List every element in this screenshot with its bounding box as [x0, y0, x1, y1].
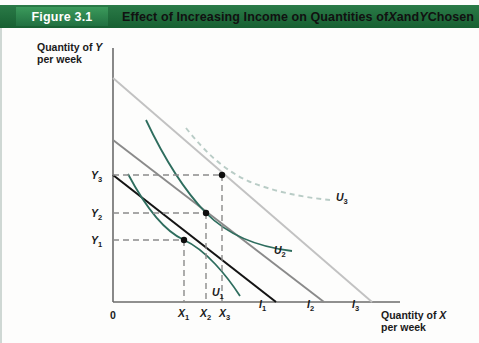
figure-title-var-y: Y	[419, 10, 427, 24]
indifference-curve-u1	[128, 174, 240, 296]
y-tick-y1-base: Y	[91, 234, 98, 246]
y-axis-title-var: Y	[95, 41, 102, 53]
indiff-u1-base: U	[212, 286, 220, 298]
indiff-u1-sub: 1	[220, 292, 224, 301]
figure-title-var-x: X	[388, 10, 396, 24]
budget-line-label-i1: I1	[259, 298, 266, 313]
budget-line-i2	[113, 140, 324, 302]
indiff-u3-sub: 3	[344, 197, 348, 206]
y-tick-label-y2: Y2	[91, 207, 102, 222]
x-tick-x2-sub: 2	[207, 313, 211, 322]
x-tick-label-x3: X3	[219, 307, 230, 322]
x-axis-title: Quantity of X per week	[381, 310, 446, 333]
y-tick-y3-base: Y	[91, 169, 98, 181]
figure-container: Figure 3.1 Effect of Increasing Income o…	[0, 0, 479, 343]
indifference-label-u1: U1	[212, 286, 224, 301]
indifference-curve-u3	[186, 128, 330, 200]
y-tick-y3-sub: 3	[98, 175, 102, 184]
x-tick-label-x1: X1	[178, 307, 189, 322]
x-tick-x1-sub: 1	[185, 313, 189, 322]
chart-svg	[0, 28, 479, 343]
origin-label: 0	[110, 309, 116, 321]
budget-i2-sub: 2	[310, 304, 314, 313]
plot-area: Quantity of Y per week Quantity of X per…	[0, 28, 479, 343]
indiff-u2-base: U	[274, 244, 282, 256]
x-tick-label-x2: X2	[200, 307, 211, 322]
x-axis-title-line1: Quantity of	[381, 309, 439, 321]
x-tick-x3-base: X	[219, 307, 226, 319]
y-axis-title-line1: Quantity of	[37, 41, 95, 53]
budget-i1-sub: 1	[262, 304, 266, 313]
indifference-label-u3: U3	[336, 191, 348, 206]
figure-number-text: Figure 3.1	[31, 10, 92, 24]
indiff-u3-base: U	[336, 191, 344, 203]
x-tick-x2-base: X	[200, 307, 207, 319]
y-tick-y2-base: Y	[91, 207, 98, 219]
y-tick-label-y3: Y3	[91, 169, 102, 184]
y-axis-title: Quantity of Y per week	[37, 42, 102, 65]
indifference-curve-u2	[146, 120, 292, 251]
budget-line-label-i3: I3	[352, 298, 359, 313]
y-tick-y1-sub: 1	[98, 240, 102, 249]
figure-number-badge: Figure 3.1	[16, 7, 108, 26]
equilibrium-point-3	[219, 172, 225, 178]
indiff-u2-sub: 2	[282, 250, 286, 259]
budget-i3-sub: 3	[355, 304, 359, 313]
figure-title-part-3: Chosen	[428, 10, 474, 24]
x-tick-x1-base: X	[178, 307, 185, 319]
budget-line-label-i2: I2	[307, 298, 314, 313]
budget-line-i1	[113, 175, 276, 302]
figure-title: Effect of Increasing Income on Quantitie…	[122, 6, 474, 27]
x-axis-title-var: X	[439, 309, 446, 321]
equilibrium-point-1	[181, 237, 187, 243]
x-axis-title-line2: per week	[381, 321, 426, 333]
equilibrium-point-2	[203, 210, 209, 216]
budget-line-i3	[113, 78, 372, 302]
y-tick-y2-sub: 2	[98, 213, 102, 222]
y-tick-label-y1: Y1	[91, 234, 102, 249]
figure-title-part-2: and	[397, 10, 420, 24]
guide-lines-group	[113, 175, 222, 302]
x-tick-x3-sub: 3	[226, 313, 230, 322]
y-axis-title-line2: per week	[37, 53, 82, 65]
indifference-label-u2: U2	[274, 244, 286, 259]
figure-title-part-1: Effect of Increasing Income on Quantitie…	[122, 10, 388, 24]
